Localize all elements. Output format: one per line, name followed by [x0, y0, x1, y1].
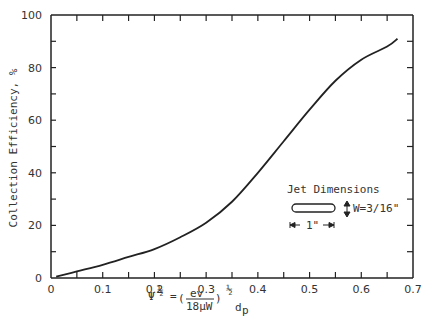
- x-label-paren-exponent: ½: [226, 283, 233, 296]
- y-axis-tick-labels: 020406080100: [21, 9, 42, 285]
- x-label-denominator: 18μW: [186, 300, 213, 313]
- y-tick-label: 20: [28, 219, 42, 232]
- x-tick-label: 0.5: [301, 283, 319, 296]
- y-axis-label: Collection Efficiency, %: [7, 68, 20, 227]
- x-tick-label: 0: [48, 283, 55, 296]
- y-tick-label: 100: [21, 9, 42, 22]
- jet-slot-icon: [292, 204, 335, 212]
- x-label-d: d: [235, 301, 242, 314]
- chart: 00.10.20.30.40.50.60.7 020406080100 Coll…: [0, 0, 429, 332]
- x-label-psi: Ψ: [148, 290, 155, 303]
- plot-frame: [51, 15, 413, 278]
- x-tick-label: 0.1: [94, 283, 112, 296]
- x-label-lparen: (: [178, 292, 185, 305]
- width-label: W=3/16": [353, 202, 399, 215]
- y-axis-ticks: [51, 41, 413, 251]
- jet-dimensions-legend: Jet Dimensions W=3/16" 1": [287, 183, 399, 232]
- x-axis-label: Ψ ½ = ( ev 18μW ) ½ d p: [148, 283, 249, 317]
- x-tick-label: 0.6: [353, 283, 371, 296]
- x-tick-label: 0.7: [404, 283, 422, 296]
- x-axis-ticks: [77, 15, 387, 278]
- x-label-subscript: p: [242, 304, 249, 317]
- efficiency-curve: [56, 39, 397, 277]
- x-label-equals: =: [170, 290, 177, 303]
- x-label-rparen: ): [215, 292, 222, 305]
- y-tick-label: 0: [35, 272, 42, 285]
- y-tick-label: 60: [28, 114, 42, 127]
- x-tick-label: 0.4: [249, 283, 267, 296]
- x-label-exponent: ½: [157, 284, 164, 297]
- legend-title: Jet Dimensions: [287, 183, 380, 196]
- y-tick-label: 40: [28, 167, 42, 180]
- width-arrow-icon: [344, 201, 350, 217]
- x-axis-tick-labels: 00.10.20.30.40.50.60.7: [48, 283, 422, 296]
- length-label: 1": [306, 219, 319, 232]
- x-label-numerator: ev: [190, 287, 204, 300]
- y-tick-label: 80: [28, 62, 42, 75]
